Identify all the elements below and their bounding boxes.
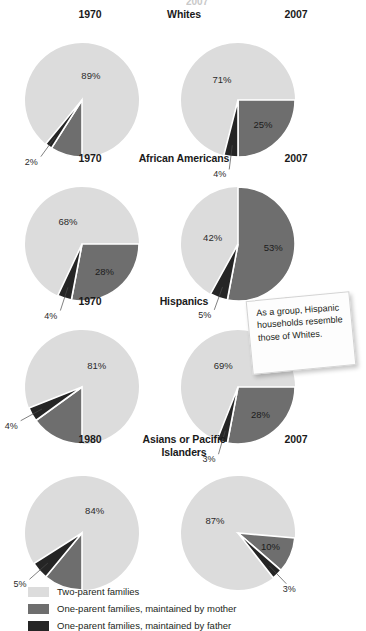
pie-slice-label: 84% <box>85 505 105 516</box>
legend-item-mother: One-parent families, maintained by mothe… <box>28 600 237 617</box>
legend-label-two-parent: Two-parent families <box>57 586 139 597</box>
legend-swatch-mother <box>28 604 49 614</box>
pie-slice-label: 71% <box>212 74 232 85</box>
legend-swatch-two-parent <box>28 587 49 597</box>
year-label-right: 2007 <box>248 433 344 446</box>
row-header: 1980 Asians or Pacific Islanders 2007 <box>0 433 366 463</box>
pie-chart-whites-1970: 89%2% <box>22 38 174 164</box>
pie-pair: 84%5% 87%10%3% <box>0 471 366 599</box>
row-header: 1970 Whites 2007 <box>0 8 366 38</box>
pie-pair: 89%2% 71%25%4% <box>0 38 366 166</box>
legend-label-mother: One-parent families, maintained by mothe… <box>57 603 237 614</box>
pie-slice-label: 28% <box>251 409 271 420</box>
legend-label-father: One-parent families, maintained by fathe… <box>57 620 231 631</box>
group-title: Hispanics <box>120 295 248 308</box>
group-title: Whites <box>120 8 248 21</box>
pie-slice-label-outside: 3% <box>283 584 296 594</box>
pie-slice-label: 53% <box>264 242 284 253</box>
pie-slice-label-outside: 4% <box>5 421 18 431</box>
pie-chart-asians-2007: 87%10%3% <box>178 471 330 597</box>
callout-note-text: As a group, Hispanic households resemble… <box>256 301 344 344</box>
pie-slice-label: 28% <box>95 266 115 277</box>
pie-slice-label: 69% <box>214 360 234 371</box>
pie-chart-asians-1980: 84%5% <box>22 471 174 597</box>
top-clipped-text: 2007 <box>186 0 366 7</box>
pie-slice-label: 87% <box>205 515 225 526</box>
legend: Two-parent families One-parent families,… <box>28 583 237 631</box>
chart-row-whites: 1970 Whites 2007 89%2% 71%25%4% <box>0 8 366 166</box>
pie-slice-label: 25% <box>253 119 273 130</box>
pie-slice-label: 68% <box>58 216 78 227</box>
legend-item-two-parent: Two-parent families <box>28 583 237 600</box>
pie-slice-label: 10% <box>261 541 281 552</box>
pie-slice-label: 42% <box>203 232 223 243</box>
legend-swatch-father <box>28 621 49 631</box>
pie-pair: 68%28%4% 42%53%5% <box>0 182 366 310</box>
year-label-right: 2007 <box>248 152 344 165</box>
top-clipped-label: 2007 <box>186 0 366 7</box>
pie-chart-whites-2007: 71%25%4% <box>178 38 330 164</box>
row-header: 1970 African Americans 2007 <box>0 152 366 182</box>
pie-chart-african-americans-2007: 42%53%5% <box>178 182 330 308</box>
callout-note: As a group, Hispanic households resemble… <box>246 291 357 375</box>
legend-item-father: One-parent families, maintained by fathe… <box>28 617 237 631</box>
pie-slice-label: 81% <box>87 360 107 371</box>
group-title: African Americans <box>120 152 248 165</box>
year-label-right: 2007 <box>248 8 344 21</box>
pie-chart-african-americans-1970: 68%28%4% <box>22 182 174 308</box>
chart-row-asians-pacific-islanders: 1980 Asians or Pacific Islanders 2007 84… <box>0 433 366 599</box>
group-title: Asians or Pacific Islanders <box>120 433 248 459</box>
pie-slice-label-outside: 5% <box>13 579 26 589</box>
chart-row-african-americans: 1970 African Americans 2007 68%28%4% 42%… <box>0 152 366 310</box>
pie-slice-label: 89% <box>81 70 101 81</box>
